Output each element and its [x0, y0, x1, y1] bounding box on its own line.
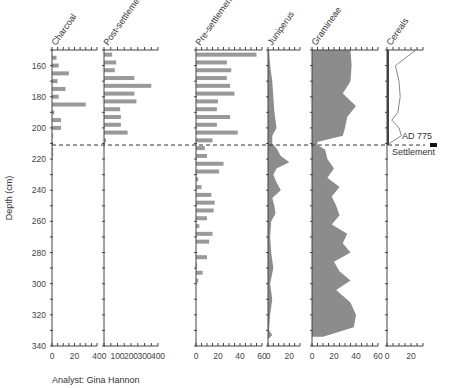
x-tick-label: 20	[285, 351, 295, 361]
bar	[196, 193, 211, 197]
depth-tick-label: 220	[32, 154, 46, 164]
x-tick-label: 60	[373, 351, 383, 361]
bar	[104, 107, 120, 111]
bar	[52, 126, 61, 130]
bar	[196, 216, 207, 220]
x-tick-label: 0	[310, 351, 315, 361]
bar	[196, 68, 231, 72]
bar	[196, 170, 219, 174]
depth-tick-label: 300	[32, 279, 46, 289]
bar	[196, 60, 227, 64]
bar	[52, 71, 69, 75]
x-tick-label: 400	[151, 351, 165, 361]
bar	[52, 56, 57, 60]
panel-title: Post-settlement plants	[101, 0, 161, 47]
bar	[196, 138, 213, 142]
x-tick-label: 0	[194, 351, 199, 361]
depth-tick-label: 260	[32, 216, 46, 226]
panel-gramineae: 0204060Gramineae	[309, 5, 383, 361]
panel-post-settlement-plants: 0100200300400Post-settlement plants	[101, 0, 165, 361]
depth-tick-label: 340	[32, 341, 46, 351]
bar	[196, 185, 202, 189]
analyst-credit: Analyst: Gina Hannon	[52, 375, 140, 385]
bar	[196, 240, 209, 244]
x-tick-label: 20	[70, 351, 80, 361]
bar	[52, 64, 59, 68]
x-tick-label: 20	[406, 351, 416, 361]
bar	[104, 115, 121, 119]
bar	[104, 99, 136, 103]
bar	[104, 131, 128, 135]
bar	[196, 99, 218, 103]
bar	[196, 53, 257, 57]
bar	[104, 84, 151, 88]
x-tick-label: 40	[92, 351, 102, 361]
depth-tick-label: 160	[32, 61, 46, 71]
panel-cereals: 020Cereals	[384, 16, 423, 361]
x-tick-label: 0	[50, 351, 55, 361]
area-curve	[268, 50, 289, 338]
bar	[196, 123, 217, 127]
bar	[196, 92, 235, 96]
bar	[104, 60, 116, 64]
panel-title: Pre-settlement plants	[193, 0, 250, 47]
annotation-event: Settlement	[392, 147, 436, 157]
x-tick-label: 40	[351, 351, 361, 361]
bar	[196, 271, 203, 275]
depth-tick-label: 240	[32, 185, 46, 195]
bar	[196, 232, 213, 236]
bar	[52, 118, 61, 122]
panel-pre-settlement-plants: 0204060Pre-settlement plants	[193, 0, 267, 361]
depth-tick-label: 280	[32, 248, 46, 258]
bar	[52, 95, 59, 99]
bar	[104, 53, 112, 57]
bar	[196, 107, 217, 111]
x-tick-label: 100	[110, 351, 124, 361]
depth-tick-label: 180	[32, 92, 46, 102]
bar	[196, 146, 205, 150]
area-curve	[312, 50, 356, 337]
depth-tick-label: 200	[32, 123, 46, 133]
settlement-marker	[430, 143, 437, 147]
bar	[104, 92, 134, 96]
x-tick-label: 40	[235, 351, 245, 361]
bar	[196, 162, 224, 166]
bar	[196, 76, 227, 80]
bar	[196, 115, 230, 119]
pollen-diagram: 160180200220240260280300320340Depth (cm)…	[0, 0, 449, 388]
bar	[52, 103, 86, 107]
x-tick-label: 0	[385, 351, 390, 361]
x-tick-label: 300	[137, 351, 151, 361]
depth-axis-title: Depth (cm)	[4, 176, 14, 221]
x-tick-label: 0	[266, 351, 271, 361]
panel-juniperus: 020Juniperus	[265, 9, 300, 361]
x-tick-label: 20	[329, 351, 339, 361]
panel-charcoal: 02040Charcoal	[49, 12, 102, 361]
bar	[196, 154, 207, 158]
depth-tick-label: 320	[32, 310, 46, 320]
bar	[196, 255, 207, 259]
panel-title: Juniperus	[265, 9, 296, 47]
x-tick-label: 0	[102, 351, 107, 361]
panel-title: Cereals	[384, 16, 410, 48]
x-tick-label: 200	[124, 351, 138, 361]
bar	[104, 123, 121, 127]
bar	[104, 68, 115, 72]
bar	[196, 208, 214, 212]
bar	[104, 76, 134, 80]
bar	[196, 131, 238, 135]
annotation-date: AD 775	[402, 131, 432, 141]
panel-title: Gramineae	[309, 5, 343, 47]
bar	[196, 201, 215, 205]
panel-title: Charcoal	[49, 12, 78, 47]
x-tick-label: 20	[213, 351, 223, 361]
bar	[52, 87, 66, 91]
depth-axis: 160180200220240260280300320340Depth (cm)	[4, 61, 46, 351]
bar	[196, 84, 230, 88]
